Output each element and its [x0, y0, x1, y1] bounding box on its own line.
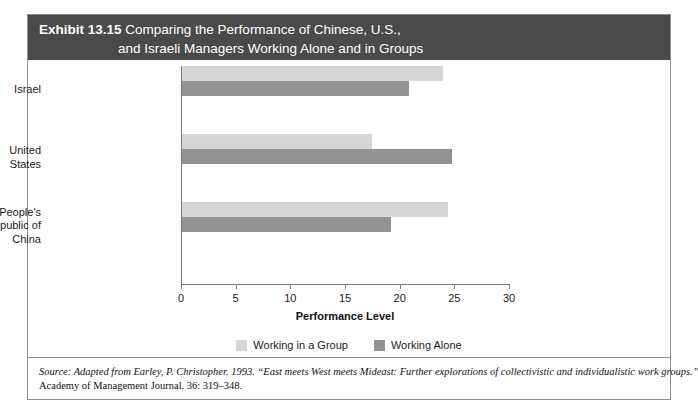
category-label: People'sRepublic ofChina	[0, 206, 41, 247]
x-axis-tick	[181, 284, 182, 289]
x-axis-tick	[509, 284, 510, 289]
x-axis-tick-label: 15	[330, 292, 360, 304]
bar	[182, 149, 452, 164]
category-label: UnitedStates	[0, 144, 41, 171]
category-label: Israel	[0, 83, 41, 97]
chart-plot-area: 051015202530 Performance Level IsraelUni…	[28, 60, 670, 401]
bar-group: UnitedStates	[28, 134, 670, 196]
exhibit-title-line-1: Exhibit 13.15 Comparing the Performance …	[39, 20, 670, 39]
source-line-1: Source: Adapted from Earley, P. Christop…	[39, 365, 660, 379]
bar-group: People'sRepublic ofChina	[28, 202, 670, 264]
source-line-2: Academy of Management Journal. 36: 319–3…	[39, 379, 660, 393]
exhibit-frame: Exhibit 13.15 Comparing the Performance …	[27, 14, 671, 400]
legend-item: Working Alone	[374, 339, 462, 351]
bar-group: Israel	[28, 66, 670, 128]
x-axis-tick-label: 30	[494, 292, 524, 304]
exhibit-title-text-1: Comparing the Performance of Chinese, U.…	[125, 22, 400, 37]
bar	[182, 134, 372, 149]
x-axis-tick-label: 0	[166, 292, 196, 304]
source-note: Source: Adapted from Earley, P. Christop…	[28, 357, 670, 399]
legend-label: Working in a Group	[253, 339, 348, 351]
x-axis-tick-label: 25	[439, 292, 469, 304]
bar	[182, 66, 443, 81]
legend-label: Working Alone	[391, 339, 462, 351]
x-axis-tick	[454, 284, 455, 289]
legend-swatch-icon	[374, 340, 385, 351]
category-label-line: Republic of	[0, 219, 41, 233]
exhibit-title-line-2: and Israeli Managers Working Alone and i…	[39, 39, 670, 58]
bar	[182, 81, 409, 96]
bar	[182, 202, 448, 217]
x-axis-tick-label: 10	[275, 292, 305, 304]
x-axis-tick	[290, 284, 291, 289]
x-axis-tick-label: 5	[221, 292, 251, 304]
x-axis-title: Performance Level	[181, 310, 509, 322]
bar	[182, 217, 391, 232]
category-label-line: States	[0, 158, 41, 172]
category-label-line: People's	[0, 206, 41, 220]
exhibit-header: Exhibit 13.15 Comparing the Performance …	[28, 15, 670, 60]
x-axis-tick	[400, 284, 401, 289]
x-axis-tick	[345, 284, 346, 289]
exhibit-number: Exhibit 13.15	[39, 22, 122, 37]
chart-legend: Working in a GroupWorking Alone	[28, 339, 670, 351]
category-label-line: United	[0, 144, 41, 158]
category-label-line: Israel	[0, 83, 41, 97]
x-axis-tick	[236, 284, 237, 289]
legend-item: Working in a Group	[236, 339, 348, 351]
category-label-line: China	[0, 233, 41, 247]
x-axis-tick-label: 20	[385, 292, 415, 304]
legend-swatch-icon	[236, 340, 247, 351]
